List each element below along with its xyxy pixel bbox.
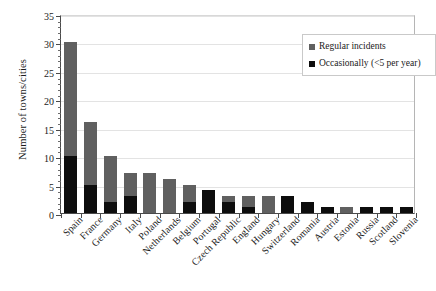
- bar-czech-republic: [222, 196, 235, 213]
- bar-italy: [124, 173, 137, 213]
- bar-segment-regular: [163, 179, 176, 213]
- bar-segment-occasional: [301, 202, 314, 213]
- bar-segment-occasional: [202, 190, 215, 213]
- bar-segment-occasional: [281, 196, 294, 213]
- bar-segment-regular: [104, 156, 117, 201]
- y-axis-tick-label: 30: [44, 39, 54, 50]
- bar-segment-occasional: [124, 196, 137, 213]
- y-axis-tick-label: 35: [44, 11, 54, 22]
- bar-segment-regular: [64, 42, 77, 156]
- bar-england: [242, 196, 255, 213]
- bar-segment-occasional: [400, 207, 413, 213]
- bar-segment-occasional: [222, 202, 235, 213]
- bar-hungary: [262, 196, 275, 213]
- bar-russia: [360, 207, 373, 213]
- y-axis-tick-label: 25: [44, 67, 54, 78]
- bar-segment-occasional: [84, 185, 97, 213]
- legend-label-occasional: Occasionally (<5 per year): [319, 57, 421, 70]
- bar-segment-occasional: [321, 207, 334, 213]
- bar-segment-regular: [340, 207, 353, 213]
- bar-segment-occasional: [183, 202, 196, 213]
- plot-area: 05101520253035 Regular incidents Occasio…: [60, 15, 415, 214]
- bar-segment-regular: [183, 185, 196, 202]
- legend-swatch-occasional-icon: [309, 61, 315, 67]
- y-axis-title: Number of towns/cities: [17, 20, 28, 200]
- bar-segment-occasional: [242, 207, 255, 213]
- bar-poland: [143, 173, 156, 213]
- y-axis-tick-label: 0: [49, 210, 54, 221]
- x-axis-labels: SpainFranceGermanyItalyPolandNetherlands…: [60, 214, 415, 291]
- bar-estonia: [340, 207, 353, 213]
- y-axis-tick-label: 5: [49, 181, 54, 192]
- bar-switzerland: [281, 196, 294, 213]
- y-axis-tick-label: 15: [44, 124, 54, 135]
- y-axis-tick-label: 20: [44, 96, 54, 107]
- bar-romania: [301, 202, 314, 213]
- bar-segment-occasional: [104, 202, 117, 213]
- legend-swatch-regular-icon: [309, 44, 315, 50]
- bar-segment-regular: [262, 196, 275, 213]
- bar-belgium: [183, 185, 196, 213]
- legend-item-occasional: Occasionally (<5 per year): [309, 57, 429, 70]
- bar-germany: [104, 156, 117, 213]
- bar-segment-regular: [242, 196, 255, 207]
- bar-segment-occasional: [64, 156, 77, 213]
- bar-slovenia: [400, 207, 413, 213]
- legend-item-regular: Regular incidents: [309, 40, 429, 53]
- y-axis-tick-label: 10: [44, 153, 54, 164]
- bar-austria: [321, 207, 334, 213]
- legend-label-regular: Regular incidents: [319, 40, 386, 53]
- bar-netherlands: [163, 179, 176, 213]
- bar-segment-occasional: [360, 207, 373, 213]
- bar-scotland: [380, 207, 393, 213]
- chart-legend: Regular incidents Occasionally (<5 per y…: [302, 34, 436, 76]
- bar-france: [84, 122, 97, 213]
- bar-portugal: [202, 190, 215, 213]
- bar-segment-regular: [143, 173, 156, 213]
- bar-segment-regular: [124, 173, 137, 196]
- bar-segment-regular: [84, 122, 97, 185]
- bar-segment-occasional: [380, 207, 393, 213]
- bar-spain: [64, 42, 77, 213]
